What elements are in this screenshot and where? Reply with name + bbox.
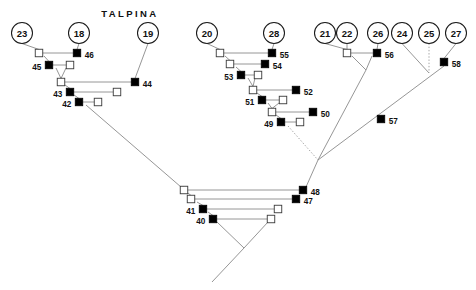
pedigree-node-47[interactable]: 47 [292,195,313,206]
node-square-filled[interactable] [45,61,53,69]
node-square-open[interactable] [274,205,282,213]
pedigree-node-57[interactable]: 57 [377,115,398,126]
node-square-open[interactable] [279,96,287,104]
node-square-filled[interactable] [373,49,381,57]
founder-18[interactable]: 18 [69,23,90,44]
founder-label: 18 [74,28,85,39]
node-square-open[interactable] [343,49,351,57]
node-square-filled[interactable] [292,195,300,203]
node-square-open[interactable] [216,49,224,57]
pedigree-node-43[interactable]: 43 [53,88,74,99]
founder-27[interactable]: 27 [446,23,467,44]
node-label: 43 [53,90,63,99]
node-label: 47 [304,197,314,206]
pedigree-node-40[interactable]: 40 [196,215,217,226]
node-square-filled[interactable] [75,98,83,106]
pedigree-node[interactable] [66,61,74,69]
pedigree-node[interactable] [267,215,275,223]
node-square-filled[interactable] [277,118,285,126]
founder-24[interactable]: 24 [392,23,413,44]
founder-19[interactable]: 19 [138,23,159,44]
node-square-open[interactable] [94,98,102,106]
pedigree-edge [135,44,148,79]
node-label: 41 [186,207,196,216]
pedigree-node[interactable] [180,186,188,194]
pedigree-node[interactable] [249,86,257,94]
pedigree-node-58[interactable]: 58 [440,58,461,69]
pedigree-node-46[interactable]: 46 [73,49,94,60]
node-square-filled[interactable] [261,60,269,68]
node-square-open[interactable] [35,49,43,57]
founder-22[interactable]: 22 [337,23,358,44]
founder-23[interactable]: 23 [12,23,33,44]
node-square-open[interactable] [249,86,257,94]
pedigree-node-53[interactable]: 53 [224,71,245,82]
node-square-filled[interactable] [268,49,276,57]
pedigree-node[interactable] [254,71,262,79]
node-square-filled[interactable] [440,58,448,66]
founder-26[interactable]: 26 [368,23,389,44]
node-square-filled[interactable] [66,88,74,96]
pedigree-node-51[interactable]: 51 [245,96,266,107]
node-square-open[interactable] [226,60,234,68]
node-label: 44 [143,80,153,89]
node-square-filled[interactable] [73,49,81,57]
pedigree-node-54[interactable]: 54 [261,60,282,71]
founder-label: 27 [451,28,462,39]
node-square-open[interactable] [187,195,195,203]
founder-20[interactable]: 20 [197,23,218,44]
pedigree-edge [444,44,456,59]
pedigree-node[interactable] [216,49,224,57]
pedigree-node-50[interactable]: 50 [309,108,330,119]
pedigree-node-42[interactable]: 42 [62,98,83,109]
pedigree-node[interactable] [113,88,121,96]
pedigree-node[interactable] [279,96,287,104]
node-square-open[interactable] [113,88,121,96]
pedigree-node-49[interactable]: 49 [264,118,285,129]
pedigree-node[interactable] [268,108,276,116]
pedigree-node[interactable] [274,205,282,213]
pedigree-edge [61,68,66,79]
founder-label: 28 [269,28,280,39]
pedigree-node-52[interactable]: 52 [292,86,313,97]
node-square-open[interactable] [296,118,304,126]
pedigree-node-48[interactable]: 48 [299,186,320,197]
node-label: 54 [273,62,283,71]
node-square-filled[interactable] [237,71,245,79]
pedigree-node-45[interactable]: 45 [32,61,53,72]
node-square-open[interactable] [268,108,276,116]
pedigree-node-44[interactable]: 44 [131,78,152,89]
node-label: 56 [385,51,395,60]
node-square-filled[interactable] [309,108,317,116]
node-square-open[interactable] [267,215,275,223]
pedigree-node[interactable] [187,195,195,203]
node-square-filled[interactable] [258,96,266,104]
node-label: 53 [224,73,234,82]
node-square-open[interactable] [180,186,188,194]
pedigree-node[interactable] [343,49,351,57]
pedigree-node-55[interactable]: 55 [268,49,289,60]
founder-25[interactable]: 25 [419,23,440,44]
founders-layer: 2318192028212226242527 [12,23,467,44]
pedigree-node[interactable] [35,49,43,57]
node-square-open[interactable] [57,78,65,86]
founder-28[interactable]: 28 [264,23,285,44]
pedigree-node[interactable] [57,78,65,86]
pedigree-node[interactable] [226,60,234,68]
founder-label: 22 [342,28,353,39]
node-square-open[interactable] [66,61,74,69]
node-square-filled[interactable] [209,215,217,223]
node-square-filled[interactable] [131,78,139,86]
node-square-filled[interactable] [377,115,385,123]
pedigree-edge [272,44,274,50]
node-square-open[interactable] [254,71,262,79]
pedigree-node[interactable] [296,118,304,126]
founder-21[interactable]: 21 [315,23,336,44]
node-square-filled[interactable] [292,86,300,94]
node-square-filled[interactable] [199,205,207,213]
pedigree-node-56[interactable]: 56 [373,49,394,60]
pedigree-node[interactable] [94,98,102,106]
node-label: 40 [196,217,206,226]
pedigree-node-41[interactable]: 41 [186,205,207,216]
node-square-filled[interactable] [299,186,307,194]
